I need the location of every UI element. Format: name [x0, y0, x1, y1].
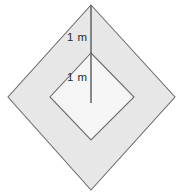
dimension-label-outer-segment: 1 m: [67, 32, 87, 44]
geometry-figure-svg: [0, 0, 187, 196]
dimension-label-inner-segment: 1 m: [67, 72, 87, 84]
geometry-figure-canvas: 1 m 1 m: [0, 0, 187, 196]
